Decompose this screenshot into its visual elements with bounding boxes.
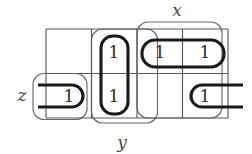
cell-value-r0c2: 1 xyxy=(155,42,166,62)
cell-value-r0c1: 1 xyxy=(109,42,120,62)
kmap-canvas: 1 1 1 1 1 1 x y z xyxy=(0,0,252,154)
cell-value-r1c1: 1 xyxy=(109,86,120,106)
loop-r1c0-wrap-left xyxy=(38,85,83,107)
karnaugh-map-diagram: 1 1 1 1 1 1 x y z xyxy=(0,0,252,154)
cell-value-r1c3: 1 xyxy=(200,86,211,106)
cell-value-r0c3: 1 xyxy=(200,42,211,62)
variable-label-x: x xyxy=(172,0,182,20)
variable-label-z: z xyxy=(17,85,28,105)
region-z-outline xyxy=(33,74,87,120)
cell-value-r1c0: 1 xyxy=(64,86,75,106)
variable-label-y: y xyxy=(116,132,127,152)
